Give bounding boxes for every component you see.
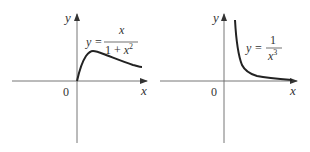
right-curve [235,20,292,80]
right-x-label: x [289,83,296,98]
left-eq-numerator: x [118,23,125,37]
graphs-canvas: y x 0 y = x 1 + x2 y x 0 y = 1 x3 [0,0,310,152]
right-eq-numerator: 1 [270,33,276,47]
left-origin-label: 0 [63,85,69,99]
left-eq-denominator: 1 + x2 [105,42,133,57]
right-origin-label: 0 [211,85,217,99]
left-graph: y x 0 y = x 1 + x2 [12,10,147,143]
left-eq-lhs: y = [85,35,102,49]
right-y-label: y [211,10,219,25]
right-graph: y x 0 y = 1 x3 [160,10,297,143]
right-eq-denominator: x3 [267,48,277,63]
left-y-label: y [63,10,71,25]
left-x-label: x [140,83,147,98]
right-eq-lhs: y = [245,41,262,55]
